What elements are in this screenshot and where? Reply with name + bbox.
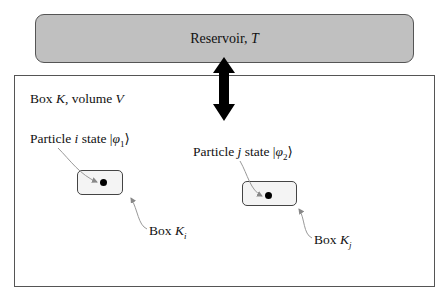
pointer-box-kj: [299, 209, 312, 238]
pointer-particle-j: [240, 161, 262, 196]
diagram-arrows: [0, 0, 446, 299]
pointer-box-ki: [131, 198, 147, 229]
pointer-particle-i: [58, 148, 97, 182]
double-arrow-icon: [213, 57, 235, 121]
